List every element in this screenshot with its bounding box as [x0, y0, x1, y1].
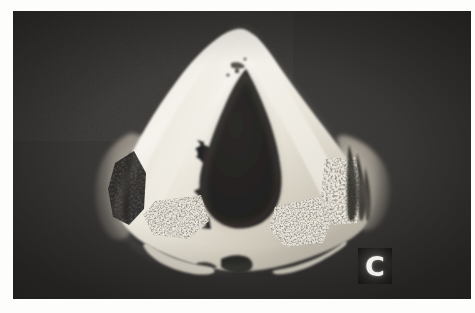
specimen-photograph-plate: C [13, 11, 471, 299]
panel-label: C [358, 248, 392, 284]
panel-label-text: C [358, 248, 392, 284]
figure-page: C [0, 0, 475, 313]
specimen-cross-section [13, 11, 471, 299]
